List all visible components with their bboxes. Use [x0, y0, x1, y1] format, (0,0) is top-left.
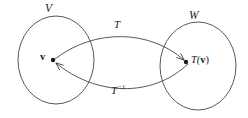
set-circle-codomain [160, 22, 236, 110]
map-arrow-forward [55, 37, 184, 60]
point-label-image: T(v) [191, 55, 209, 66]
set-label-codomain: W [189, 10, 199, 22]
point-label-image-prefix: T( [191, 54, 200, 65]
set-label-domain: V [45, 3, 52, 15]
point-dot-source [51, 58, 55, 62]
point-dot-image [184, 60, 188, 64]
point-label-source: v [40, 52, 45, 63]
point-label-image-suffix: ) [206, 54, 210, 65]
linear-transformation-diagram: V W T T−1 v T(v) [0, 0, 248, 118]
map-label-inverse: T−1 [111, 84, 125, 96]
diagram-canvas [0, 0, 248, 118]
map-label-forward: T [114, 19, 120, 30]
map-label-inverse-exponent: −1 [117, 83, 125, 91]
set-circle-domain [18, 16, 94, 104]
